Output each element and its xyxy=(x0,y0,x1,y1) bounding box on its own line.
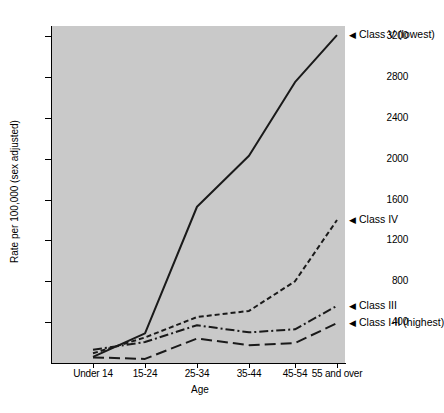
y-axis-tick xyxy=(45,200,52,201)
y-axis-tick-label: 1600 xyxy=(368,195,408,205)
series-label-text: Class V (lowest) xyxy=(359,28,435,40)
y-axis-tick xyxy=(45,77,52,78)
y-axis-tick xyxy=(45,118,52,119)
x-axis-line xyxy=(51,363,346,364)
y-axis-tick-label: 1200 xyxy=(368,235,408,245)
series-label-text: Class III xyxy=(359,299,397,311)
y-axis-tick-label: 2000 xyxy=(368,154,408,164)
y-axis-tick xyxy=(45,159,52,160)
series-group xyxy=(93,35,337,359)
plot-svg xyxy=(52,26,345,363)
y-axis-tick-label: 2400 xyxy=(368,113,408,123)
x-axis-tick-label: 55 and over xyxy=(297,368,377,379)
series-line-0 xyxy=(93,35,337,357)
y-axis-tick-label: 800 xyxy=(368,276,408,286)
series-label-text: Class I-II (highest) xyxy=(359,316,444,328)
left-triangle-icon: ◀ xyxy=(349,215,356,225)
series-line-1 xyxy=(93,220,337,353)
y-axis-tick xyxy=(45,36,52,37)
y-axis-tick xyxy=(45,322,52,323)
series-line-2 xyxy=(93,306,337,350)
y-axis-tick-label: 2800 xyxy=(368,72,408,82)
series-label-0: ◀Class V (lowest) xyxy=(349,29,435,41)
series-label-text: Class IV xyxy=(359,213,398,225)
series-label-1: ◀Class IV xyxy=(349,214,398,226)
series-label-2: ◀Class III xyxy=(349,300,397,312)
y-axis-tick xyxy=(45,281,52,282)
left-triangle-icon: ◀ xyxy=(349,318,356,328)
left-triangle-icon: ◀ xyxy=(349,30,356,40)
plot-area xyxy=(52,26,345,363)
x-axis-title: Age xyxy=(150,384,250,395)
y-axis-title: Rate per 100,000 (sex adjusted) xyxy=(9,82,20,302)
series-label-3: ◀Class I-II (highest) xyxy=(349,317,444,329)
y-axis-tick xyxy=(45,240,52,241)
left-triangle-icon: ◀ xyxy=(349,301,356,311)
